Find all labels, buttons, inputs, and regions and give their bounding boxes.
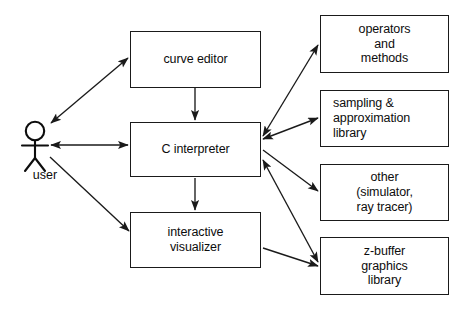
node-other-simulator-label: other (simulator, ray tracer) [356,170,413,214]
edge-interactive-visualizer-zbuffer-library [263,248,318,266]
user-head [26,122,44,140]
node-sampling-library[interactable]: sampling & approximation library [320,90,449,147]
node-interactive-visualizer-label: interactive visualizer [168,225,224,255]
edge-c-interpreter-other-simulator [263,150,318,191]
edge-user-curve-editor [51,58,128,123]
node-other-simulator[interactable]: other (simulator, ray tracer) [320,164,449,221]
diagram-canvas: user curve editor C interpreter interact… [0,0,473,311]
node-operators-methods-label: operators and methods [359,22,411,66]
edge-c-interpreter-operators-methods [263,45,318,136]
node-interactive-visualizer[interactable]: interactive visualizer [130,212,261,268]
edge-c-interpreter-zbuffer-library [263,160,318,262]
node-c-interpreter[interactable]: C interpreter [130,122,261,177]
node-zbuffer-library-label: z-buffer graphics library [361,244,407,288]
node-curve-editor-label: curve editor [163,52,227,67]
node-operators-methods[interactable]: operators and methods [320,15,449,73]
user-label: user [12,168,78,182]
node-c-interpreter-label: C interpreter [161,142,229,157]
node-sampling-library-label: sampling & approximation library [327,96,410,140]
node-zbuffer-library[interactable]: z-buffer graphics library [320,237,449,295]
node-curve-editor[interactable]: curve editor [130,31,261,88]
